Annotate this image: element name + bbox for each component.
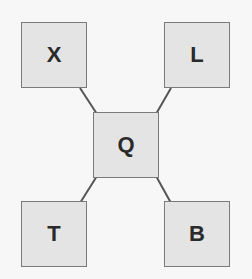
node-t: T [21,201,87,267]
edge-x-q [80,88,97,114]
node-l: L [164,22,230,88]
edge-b-q [156,176,171,203]
edge-t-q [80,176,97,203]
node-b: B [164,201,230,267]
node-q: Q [93,112,159,178]
node-x: X [21,22,87,88]
edge-l-q [156,88,171,114]
